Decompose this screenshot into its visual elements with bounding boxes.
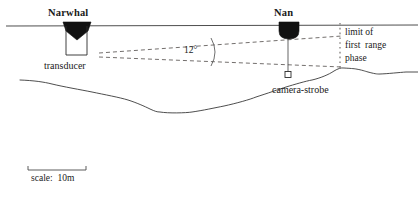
range-phase-limit-line-1: limit of — [345, 26, 373, 39]
camera-strobe-label: camera-strobe — [272, 84, 329, 95]
narwhal-label: Narwhal — [48, 7, 88, 19]
beam-angle-label: 12° — [184, 45, 197, 56]
beam-upper-edge-line — [99, 36, 342, 53]
transducer-label: transducer — [44, 60, 86, 71]
range-phase-limit-line-3: phase — [345, 52, 367, 65]
camera-strobe-marker — [285, 72, 291, 78]
nan-label: Nan — [274, 7, 293, 19]
sonar-survey-diagram: Narwhal transducer 12° Nan camera-strobe… — [0, 0, 418, 203]
scale-bar-label: scale: 10m — [31, 173, 74, 184]
nan-hull-icon — [279, 22, 299, 39]
range-phase-limit-line-2: first range — [345, 39, 386, 52]
beam-lower-edge-line — [99, 57, 342, 67]
seabed-profile-line — [20, 68, 418, 113]
